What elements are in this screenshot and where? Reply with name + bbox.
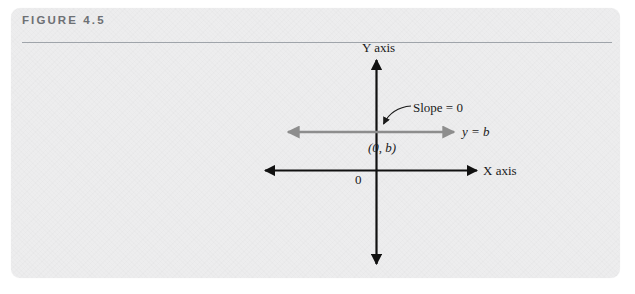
x-axis-label: X axis: [483, 163, 517, 179]
y-axis-label: Y axis: [362, 40, 395, 56]
header-divider: [22, 42, 612, 43]
figure-root: FIGURE 4.5 Y axis X axis Slope = 0 y = b…: [0, 0, 635, 294]
origin-label: 0: [355, 172, 362, 188]
y-intercept-label: (0, b): [368, 140, 396, 156]
figure-panel: [11, 8, 620, 278]
line-equation-label: y = b: [462, 124, 490, 140]
figure-label: FIGURE 4.5: [22, 14, 106, 26]
slope-annotation-label: Slope = 0: [413, 100, 463, 116]
